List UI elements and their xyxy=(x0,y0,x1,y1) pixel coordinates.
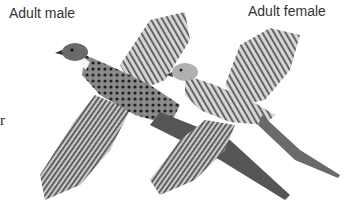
female-tail xyxy=(258,115,340,178)
male-beak xyxy=(55,50,63,55)
male-lower-wing xyxy=(40,95,130,200)
male-eye xyxy=(70,48,73,51)
female-eye xyxy=(180,69,183,72)
female-upper-wing xyxy=(225,28,300,105)
female-head xyxy=(172,63,198,81)
pheasant-illustration xyxy=(0,0,345,218)
